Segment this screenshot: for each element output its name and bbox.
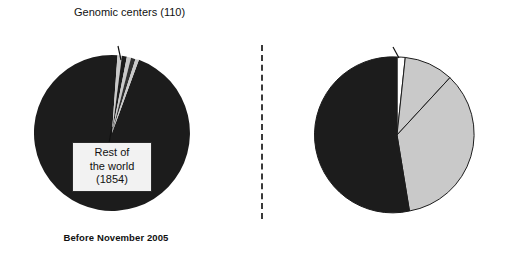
genomic-centers-label-line3: (110) (160, 6, 185, 18)
rest-of-world-left-line3: (1854) (79, 173, 145, 187)
left-pie-panel: Genomic centers (110) Rest of the world … (0, 0, 254, 261)
genomic-centers-label: Genomic centers (110) (74, 6, 154, 20)
right-pie-panel: CESG (2) RIKEN (12) SGC (42) Rest of the… (254, 0, 508, 261)
genomic-centers-label-line1: Genomic (74, 6, 118, 18)
left-chart-caption: Before November 2005 (0, 232, 232, 243)
two-pie-chart-figure: Genomic centers (110) Rest of the world … (0, 0, 508, 261)
right-pie-svg (254, 0, 508, 261)
rest-of-world-left-line2: the world (79, 160, 145, 174)
genomic-centers-label-line2: centers (121, 6, 157, 18)
rest-of-world-left-line1: Rest of (79, 146, 145, 160)
cesg-leader-line (393, 47, 399, 58)
left-pie-svg (0, 0, 254, 261)
right-pie-slices (314, 57, 474, 213)
rest-of-world-callout-left: Rest of the world (1854) (72, 142, 152, 192)
slice-rest-of-the-world-right[interactable] (314, 57, 409, 213)
